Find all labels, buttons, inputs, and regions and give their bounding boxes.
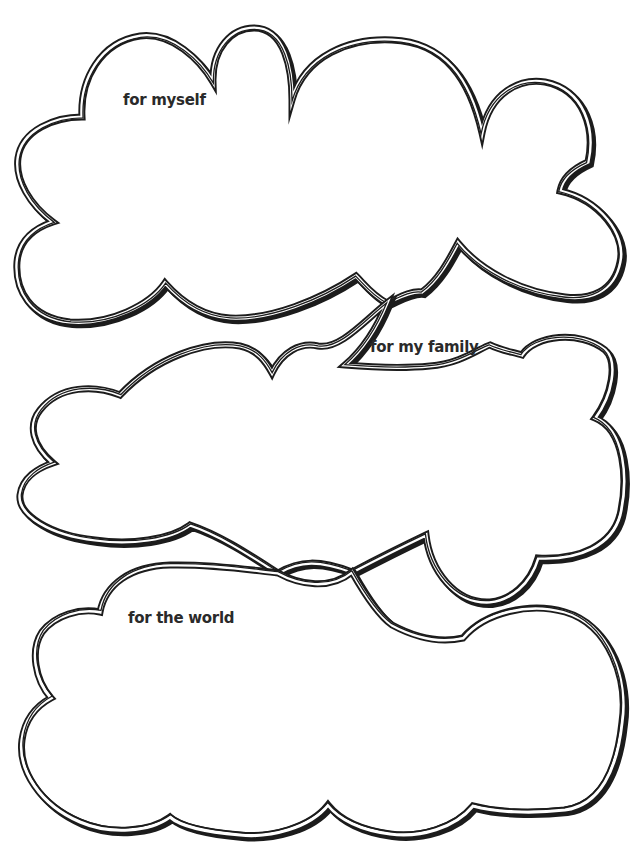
cloud-label-family: for my family [370,340,479,355]
cloud-label-myself: for myself [123,93,206,108]
cloud-label-world: for the world [128,611,234,626]
cloud-world [22,564,626,838]
worksheet-canvas [0,0,640,853]
cloud-myself [17,28,624,325]
cloud-family [20,303,626,605]
